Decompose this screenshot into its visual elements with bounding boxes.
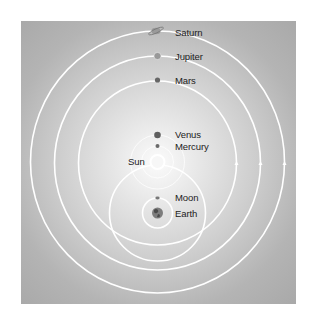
mars-label: Mars	[175, 76, 196, 86]
venus-label: Venus	[175, 130, 201, 140]
saturn-label: Saturn	[175, 28, 202, 38]
orbit-diagram	[0, 0, 311, 321]
earth-icon	[152, 208, 163, 219]
venus-icon	[154, 132, 161, 139]
mercury-label: Mercury	[175, 142, 209, 152]
moon-icon	[155, 197, 159, 200]
mercury-icon	[156, 144, 160, 148]
mars-orbit-arrow-icon	[235, 161, 239, 165]
saturn-orbit-arrow-icon	[283, 161, 287, 165]
sun-label: Sun	[128, 157, 145, 167]
jupiter-icon	[154, 52, 161, 59]
sun-icon	[151, 155, 165, 169]
moon-label: Moon	[175, 193, 198, 203]
mars-icon	[155, 77, 160, 82]
earth-label: Earth	[175, 209, 197, 219]
jupiter-orbit-arrow-icon	[259, 161, 263, 165]
jupiter-label: Jupiter	[175, 52, 203, 62]
